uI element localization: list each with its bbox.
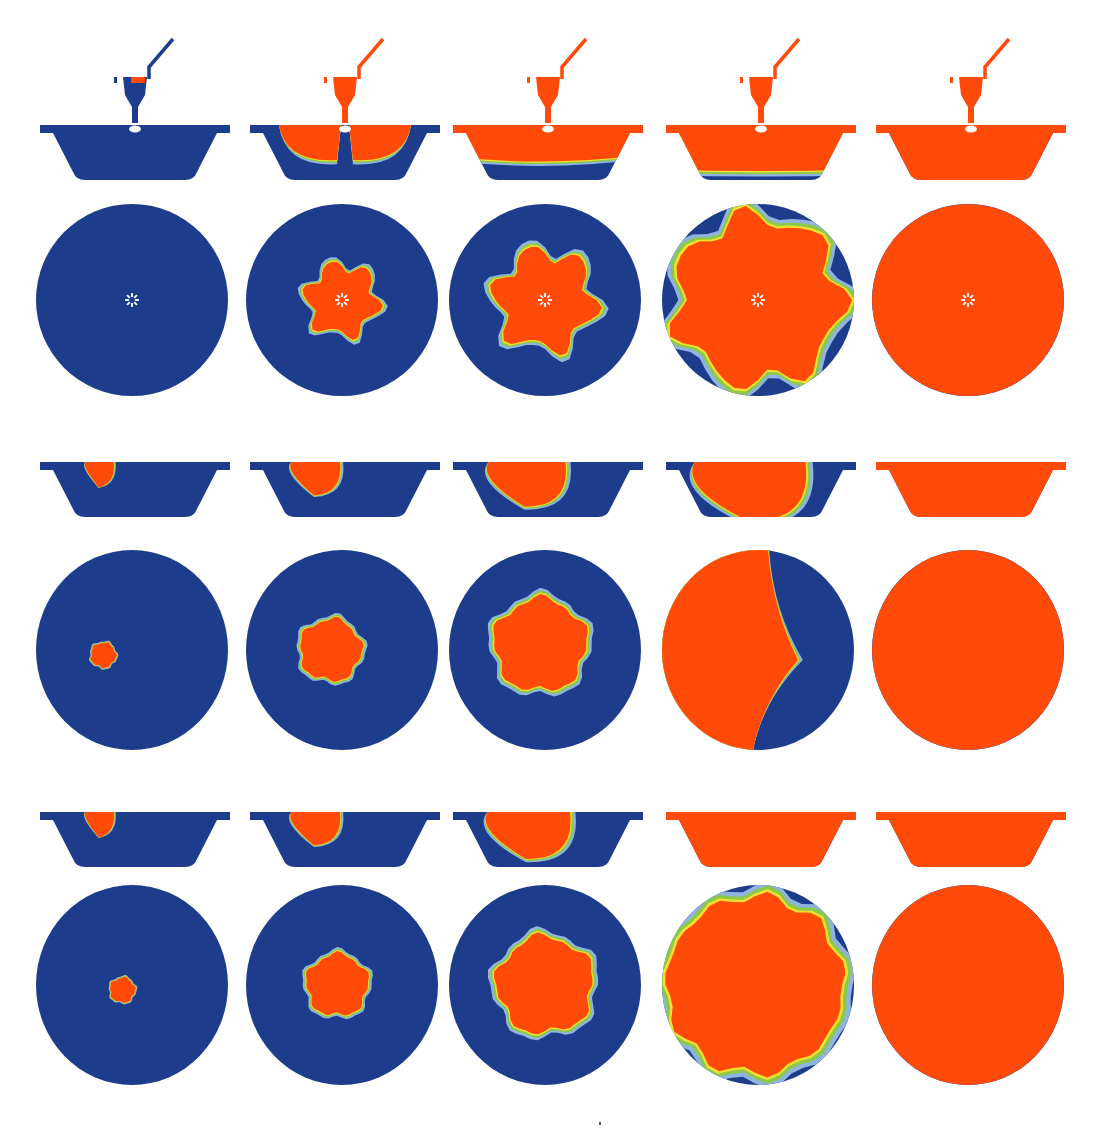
footnote-mark — [599, 1122, 601, 1125]
figure-grid: Mold filling simulation sequence — [0, 0, 1101, 1132]
